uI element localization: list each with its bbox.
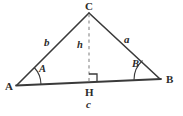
triangle-figure-svg <box>0 0 183 116</box>
side-label-a: a <box>124 34 130 45</box>
side-label-c: c <box>86 99 91 110</box>
triangle-diagram: A C B H b a c h A B <box>0 0 183 116</box>
vertex-label-B: B <box>166 74 173 85</box>
vertex-label-C: C <box>85 1 93 12</box>
vertex-label-H: H <box>85 87 94 98</box>
angle-label-B: B <box>132 59 139 70</box>
side-label-b: b <box>44 37 50 48</box>
altitude-label-h: h <box>77 40 83 51</box>
vertex-label-A: A <box>5 81 13 92</box>
right-angle-marker <box>89 74 97 82</box>
angle-label-A: A <box>39 64 46 75</box>
side-a-line <box>89 13 160 79</box>
